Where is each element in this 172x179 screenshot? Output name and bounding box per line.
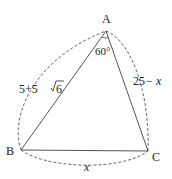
side-bc [21, 150, 148, 151]
side-ac-minus: − [146, 74, 153, 88]
side-bc-label: x [83, 160, 90, 174]
side-ab-label: 5+5 [19, 82, 38, 96]
vertex-c-label: C [152, 150, 160, 164]
side-ab-root: 6 [56, 82, 62, 96]
triangle-diagram: A B C 60° 5+5 6 25 − x x [0, 0, 172, 179]
angle-a-mark [102, 37, 109, 38]
angle-a-label: 60° [95, 45, 110, 57]
vertex-b-label: B [6, 144, 14, 158]
vertex-a-label: A [102, 12, 111, 26]
side-ac-num: 25 [133, 74, 145, 88]
side-ac [106, 31, 148, 151]
side-ac-var: x [155, 74, 162, 88]
